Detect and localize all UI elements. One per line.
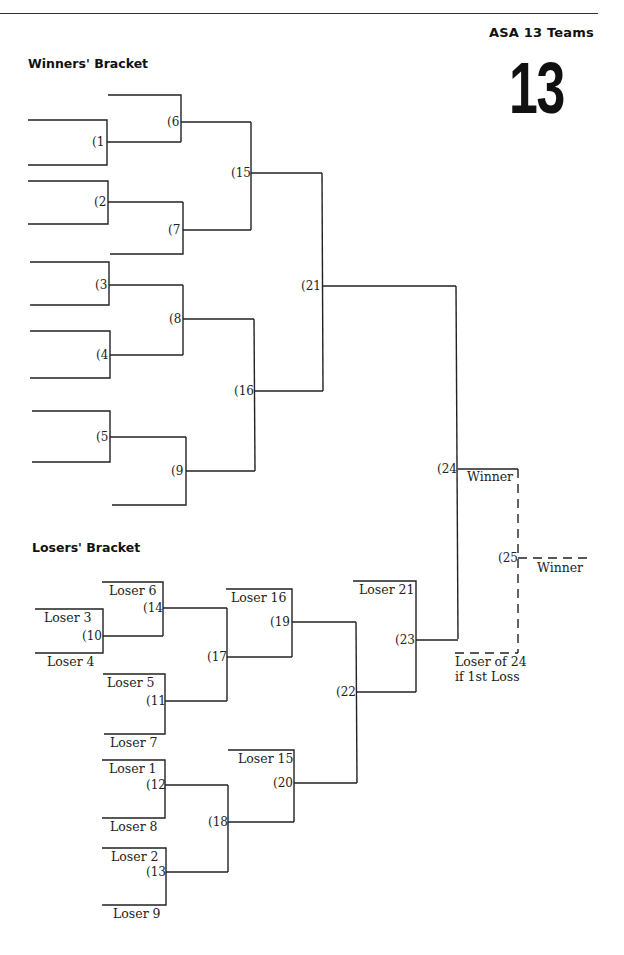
- game-14-label: (14: [143, 602, 163, 614]
- game-10-label: (10: [82, 630, 102, 642]
- game-11-label: (11: [146, 695, 166, 707]
- slot-loser-4: Loser 4: [47, 655, 95, 668]
- game-18-label: (18: [208, 816, 228, 828]
- slot-loser-2: Loser 2: [111, 850, 159, 863]
- game-25-label: (25: [498, 552, 518, 564]
- slot-loser-7: Loser 7: [110, 736, 158, 749]
- game-12-label: (12: [146, 779, 166, 791]
- game-22-lines: [356, 622, 357, 783]
- game-23-label: (23: [395, 634, 415, 646]
- loser-24-label-line1: Loser of 24: [455, 655, 527, 668]
- game-4-label: (4: [96, 349, 108, 361]
- game-3-label: (3: [95, 279, 107, 291]
- game-15-label: (15: [231, 167, 251, 179]
- winner-25-label: Winner: [537, 561, 583, 574]
- game-8-label: (8: [169, 313, 181, 325]
- game-16-lines: [254, 319, 255, 471]
- slot-loser-5: Loser 5: [107, 676, 155, 689]
- slot-loser-21: Loser 21: [359, 583, 415, 596]
- slot-loser-9: Loser 9: [113, 907, 161, 920]
- slot-loser-6: Loser 6: [109, 584, 157, 597]
- slot-loser-3: Loser 3: [44, 611, 92, 624]
- slot-loser-16: Loser 16: [231, 591, 287, 604]
- game-6-label: (6: [167, 116, 179, 128]
- game-24-label: (24: [437, 463, 457, 475]
- game-21-label: (21: [301, 280, 321, 292]
- game-17-label: (17: [207, 651, 227, 663]
- winner-24-label: Winner: [467, 470, 513, 483]
- winners-bracket-lines: [28, 95, 518, 639]
- game-13-label: (13: [146, 866, 166, 878]
- slot-loser-1: Loser 1: [109, 762, 157, 775]
- game-5-label: (5: [96, 431, 108, 443]
- game-21-lines: [322, 173, 323, 391]
- slot-loser-15: Loser 15: [238, 752, 294, 765]
- game-2-label: (2: [94, 196, 106, 208]
- game-16-label: (16: [234, 385, 254, 397]
- game-7-label: (7: [168, 224, 180, 236]
- game-22-label: (22: [336, 686, 356, 698]
- slot-loser-8: Loser 8: [110, 820, 158, 833]
- loser-24-label-line2: if 1st Loss: [455, 670, 520, 683]
- game-1-label: (1: [92, 136, 104, 148]
- game-9-label: (9: [171, 465, 183, 477]
- game-19-label: (19: [270, 616, 290, 628]
- game-20-label: (20: [273, 777, 293, 789]
